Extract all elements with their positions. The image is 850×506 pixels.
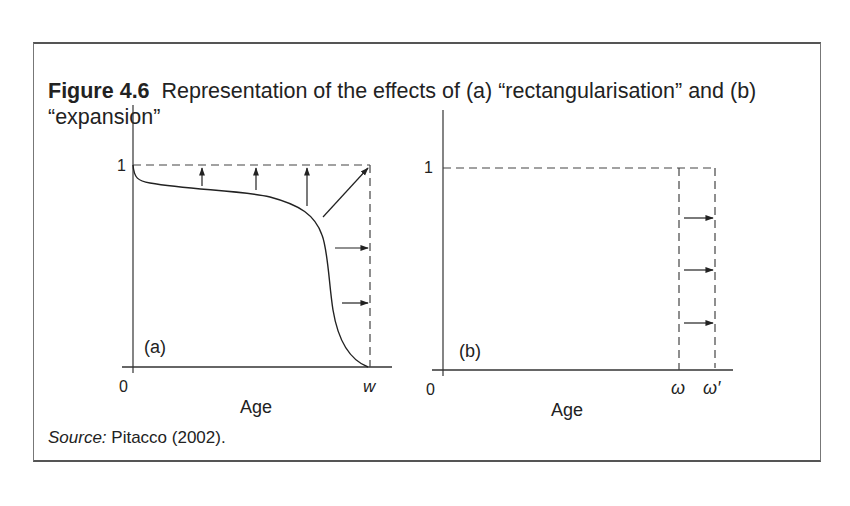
panel-b: 1 (b) 0 ω ω′ Age <box>424 110 733 420</box>
x-origin: 0 <box>426 381 435 398</box>
x-end-label: w <box>363 377 377 396</box>
panel-a: 1 (a) 0 w Age <box>117 105 392 417</box>
omega-prime-label: ω′ <box>703 378 721 398</box>
omega-label: ω <box>671 378 685 398</box>
source-label: Source: <box>48 428 107 447</box>
x-axis-label: Age <box>551 400 583 420</box>
survival-curve <box>133 165 368 367</box>
figure-source: Source: Pitacco (2002). <box>48 428 226 448</box>
panel-tag: (b) <box>459 341 481 361</box>
x-axis-label: Age <box>240 397 272 417</box>
panel-tag: (a) <box>144 337 166 357</box>
y-tick-1: 1 <box>424 159 433 176</box>
arrow-diagonal-icon <box>323 168 368 217</box>
x-origin: 0 <box>119 378 128 395</box>
y-tick-1: 1 <box>117 157 126 174</box>
source-text: Pitacco (2002). <box>111 428 225 447</box>
